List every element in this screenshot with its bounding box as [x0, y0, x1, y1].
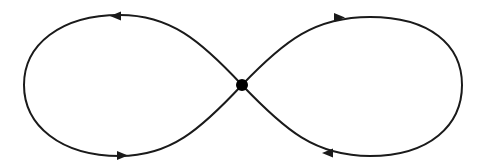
right-loop-curve — [242, 17, 462, 156]
left-loop-curve — [24, 15, 242, 156]
figure-eight-diagram — [0, 0, 486, 168]
center-node — [236, 79, 248, 91]
top-left-arrow-icon — [110, 12, 121, 21]
bottom-left-arrow-icon — [117, 151, 128, 160]
